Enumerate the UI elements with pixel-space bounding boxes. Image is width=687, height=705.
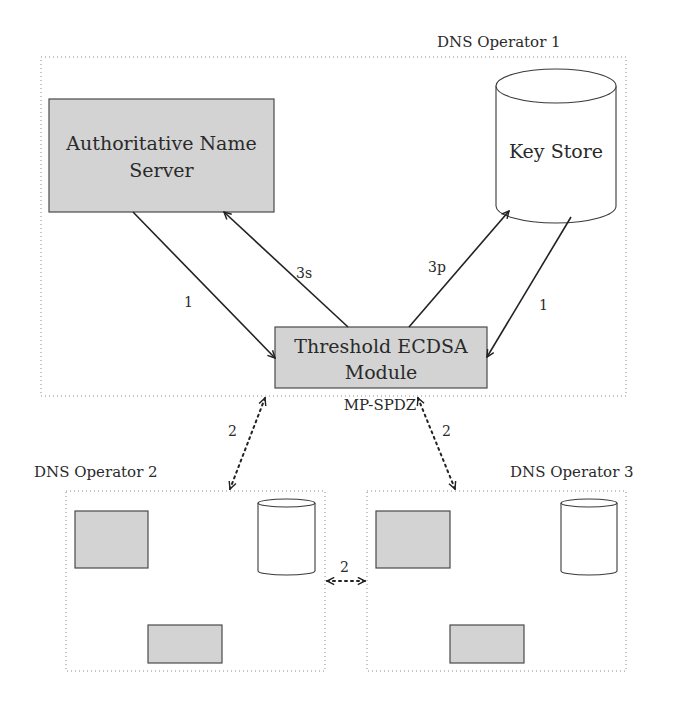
threshold-module-label-line1: Threshold ECDSA — [294, 335, 468, 357]
edge-label: 3s — [296, 265, 312, 281]
arrow-icon — [224, 212, 348, 327]
edge-label: 3p — [428, 259, 446, 275]
name-server-label-line1: Authoritative Name — [65, 132, 256, 154]
edge-threshold-to-ans: 3s — [224, 212, 348, 327]
authoritative-name-server — [75, 511, 148, 568]
cylinder-top-icon — [258, 499, 315, 507]
dns-threshold-ecdsa-diagram: DNS Operator 1Authoritative NameServerKe… — [0, 0, 687, 705]
authoritative-name-server — [376, 511, 450, 568]
arrow-icon — [418, 398, 455, 489]
authoritative-name-server: Authoritative NameServer — [49, 99, 274, 212]
threshold-module-box — [148, 625, 222, 663]
arrow-icon — [409, 211, 509, 327]
edge-label: 2 — [442, 423, 451, 439]
cylinder-top-icon — [496, 69, 616, 103]
key-store: Key Store — [496, 69, 616, 223]
edge-label: 1 — [184, 294, 193, 310]
operator-op3: DNS Operator 3 — [367, 463, 634, 671]
edge-label: 1 — [539, 297, 548, 313]
edge-label: 2 — [340, 559, 349, 575]
edge-threshold-to-keystore: 3p — [409, 211, 509, 327]
threshold-ecdsa-module — [148, 625, 222, 663]
arrow-icon — [230, 398, 265, 489]
name-server-box — [376, 511, 450, 568]
cylinder-top-icon — [561, 499, 617, 507]
operator-op1: DNS Operator 1Authoritative NameServerKe… — [41, 33, 626, 414]
key-store — [561, 499, 617, 575]
edge-label: 2 — [228, 423, 237, 439]
threshold-module-box — [450, 625, 524, 663]
key-store-label: Key Store — [509, 140, 603, 162]
operator-label: DNS Operator 3 — [510, 463, 634, 481]
edge-keystore-to-threshold: 1 — [487, 217, 571, 357]
name-server-box — [49, 99, 274, 212]
cylinder-body-icon — [258, 503, 315, 575]
operators-layer: DNS Operator 1Authoritative NameServerKe… — [34, 33, 634, 671]
name-server-box — [75, 511, 148, 568]
operator-label: DNS Operator 1 — [437, 33, 561, 51]
threshold-ecdsa-module — [450, 625, 524, 663]
threshold-ecdsa-module: Threshold ECDSAModuleMP-SPDZ — [275, 327, 487, 414]
cylinder-body-icon — [561, 503, 617, 575]
edge-op1-op3-mpc: 2 — [418, 398, 455, 489]
edge-op1-op2-mpc: 2 — [228, 398, 265, 489]
key-store — [258, 499, 315, 575]
mp-spdz-label: MP-SPDZ — [344, 396, 417, 414]
threshold-module-label-line2: Module — [345, 361, 418, 383]
name-server-label-line2: Server — [129, 159, 194, 181]
arrow-icon — [133, 212, 275, 358]
arrow-icon — [487, 217, 571, 357]
operator-op2: DNS Operator 2 — [34, 463, 325, 671]
edge-ans-to-threshold: 1 — [133, 212, 275, 358]
operator-label: DNS Operator 2 — [34, 463, 158, 481]
edge-op2-op3-mpc: 2 — [327, 559, 365, 581]
